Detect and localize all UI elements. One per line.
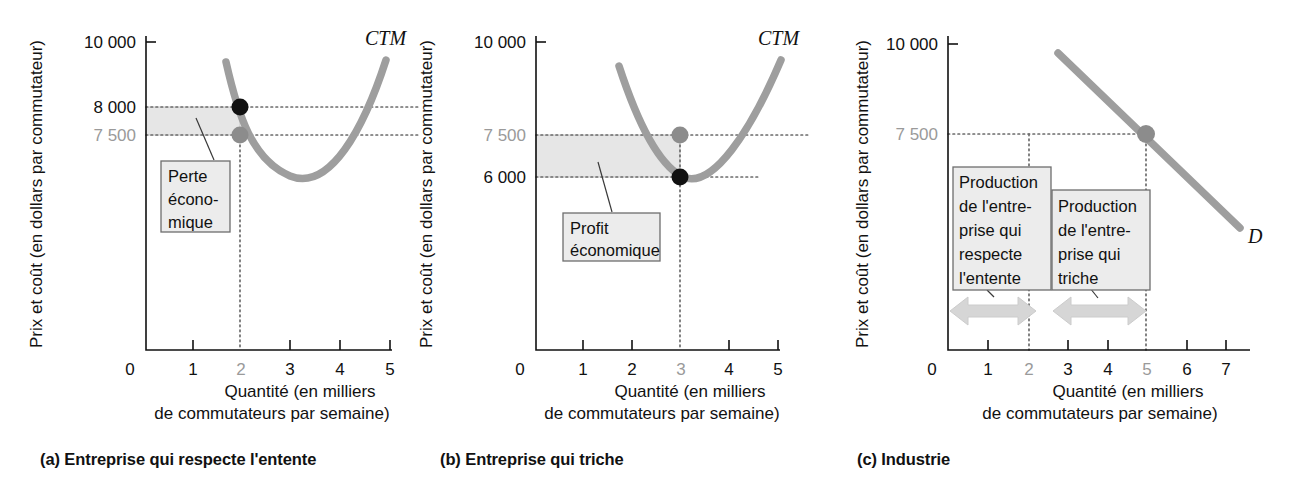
xtick-label-0-b: 0 [515,360,524,379]
ytick-label-8000-a: 8 000 [93,98,136,117]
span-arrow-complier-c [950,297,1036,325]
y-axis-title-c: Prix et coût (en dollars par commutateur… [853,40,872,348]
demand-curve-label-c: D [1247,225,1263,247]
figure-canvas: CTM 10 000 8 000 7 500 0 1 2 3 4 5 Prix … [0,0,1297,498]
ctm-curve-label-b: CTM [758,27,800,49]
cost-point-a [232,99,249,116]
price-point-b [672,127,689,144]
price-point-a [232,127,249,144]
x-axis-title-line2-c: de commutateurs par semaine) [982,404,1217,423]
xtick-label-2-b: 2 [627,360,636,379]
ytick-label-10000-b: 10 000 [474,33,526,52]
x-axis-title-line2-b: de commutateurs par semaine) [544,404,779,423]
callout-right-line-1-c: Production [1058,197,1137,215]
xtick-label-7-c: 7 [1221,360,1230,379]
shaded-economic-loss-region-a [146,107,240,135]
x-axis-title-line1-b: Quantité (en milliers [614,382,765,401]
xtick-label-4-c: 4 [1103,360,1112,379]
callout-right-line-3-c: prise qui [1058,245,1120,263]
panel-caption-a: (a) Entreprise qui respecte l'entente [40,450,316,469]
figure-root: CTM 10 000 8 000 7 500 0 1 2 3 4 5 Prix … [0,0,1297,498]
xtick-label-4-a: 4 [335,360,344,379]
xtick-label-5-a: 5 [385,360,394,379]
xtick-label-1-c: 1 [983,360,992,379]
callout-left-line-5-c: l'entente [959,269,1021,287]
ytick-label-10000-a: 10 000 [84,33,136,52]
panel-caption-c: (c) Industrie [857,450,950,469]
callout-left-line-4-c: respecte [959,245,1022,263]
ytick-label-6000-b: 6 000 [483,168,526,187]
ctm-curve-label-a: CTM [365,27,407,49]
xtick-label-0-c: 0 [927,360,936,379]
callout-left-line-3-c: prise qui [959,221,1021,239]
xtick-label-1-a: 1 [188,360,197,379]
xtick-label-0-a: 0 [125,360,134,379]
xtick-label-6-c: 6 [1182,360,1191,379]
xtick-label-4-b: 4 [724,360,733,379]
xtick-label-1-b: 1 [578,360,587,379]
callout-line-3-a: mique [168,213,213,231]
span-arrow-cheater-c [1053,297,1146,325]
ytick-label-7500-b: 7 500 [483,126,526,145]
xtick-label-5-b: 5 [773,360,782,379]
callout-left-line-2-c: de l'entre- [959,197,1032,215]
x-axis-title-line1-a: Quantité (en milliers [224,382,375,401]
panel-caption-b: (b) Entreprise qui triche [440,450,624,469]
callout-right-line-4-c: triche [1058,269,1098,287]
xtick-label-3-b: 3 [676,360,685,379]
xtick-label-2-c: 2 [1024,360,1033,379]
y-axis-title-a: Prix et coût (en dollars par commutateur… [27,40,46,348]
ctm-curve-a [226,60,386,178]
callout-line-1-a: Perte [168,167,207,185]
xtick-label-5-c: 5 [1142,360,1151,379]
x-axis-title-line1-c: Quantité (en milliers [1052,382,1203,401]
cost-point-b [672,169,689,186]
panel-c: D 10 000 7 500 0 1 2 3 4 5 6 7 Prix et c… [853,35,1263,423]
ytick-label-7500-a: 7 500 [93,126,136,145]
xtick-label-3-c: 3 [1063,360,1072,379]
callout-line-2-b: économique [570,241,660,259]
callout-line-2-a: écono- [168,190,218,208]
ytick-label-10000-c: 10 000 [886,35,938,54]
axes-b [536,36,780,350]
callout-left-line-1-c: Production [959,173,1038,191]
panel-a: CTM 10 000 8 000 7 500 0 1 2 3 4 5 Prix … [27,27,418,423]
equilibrium-point-c [1137,125,1155,143]
callout-right-line-2-c: de l'entre- [1058,221,1131,239]
x-axis-title-line2-a: de commutateurs par semaine) [154,404,389,423]
xtick-label-2-a: 2 [236,360,245,379]
callout-leader-left-c [987,290,994,297]
callout-line-1-b: Profit [570,219,609,237]
ytick-label-7500-c: 7 500 [895,125,938,144]
panel-b: CTM 10 000 7 500 6 000 0 1 2 3 4 5 Prix … [417,27,808,423]
y-axis-title-b: Prix et coût (en dollars par commutateur… [417,40,436,348]
xtick-label-3-a: 3 [285,360,294,379]
